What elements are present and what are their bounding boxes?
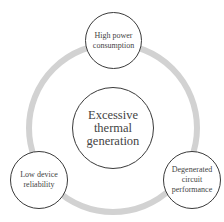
node-high-power-consumption: High power consumption [85,12,142,69]
node-label: High power consumption [93,31,134,51]
node-label: Degenerated circuit performance [172,165,212,195]
node-low-device-reliability: Low device reliability [10,151,68,209]
node-label: Low device reliability [20,170,58,190]
center-node-excessive-thermal-generation: Excessive thermal generation [72,87,154,169]
cycle-diagram: Excessive thermal generation High power … [0,0,224,222]
center-node-label: Excessive thermal generation [87,109,140,148]
node-degenerated-circuit-performance: Degenerated circuit performance [163,151,221,209]
